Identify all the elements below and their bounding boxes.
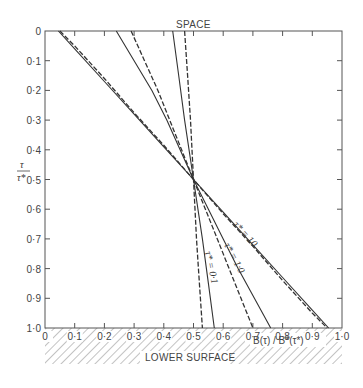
space-label: SPACE — [176, 19, 211, 30]
chart: 00·10·20·30·40·50·60·70·80·91·0 00·10·20… — [0, 0, 363, 388]
y-axis-title-denominator: τ* — [17, 172, 26, 183]
y-tick-label: 0·5 — [27, 175, 42, 186]
y-tick-label: 0·9 — [27, 293, 42, 304]
x-axis-title: B(τ) / B*(τ*) — [253, 335, 304, 346]
lower-surface-label: LOWER SURFACE — [145, 352, 236, 363]
y-tick-label: 0 — [35, 26, 41, 37]
y-tick-label: 0·2 — [27, 85, 42, 96]
x-tick-label: 1·0 — [335, 331, 350, 342]
y-tick-label: 0·7 — [27, 234, 42, 245]
x-tick-label: 0·3 — [127, 331, 142, 342]
x-tick-label: 0·2 — [97, 331, 112, 342]
x-tick-label: 0·6 — [216, 331, 231, 342]
x-tick-label: 0·1 — [67, 331, 82, 342]
curve-label-tau-10: τ* = 10 — [232, 219, 260, 249]
x-tick-label: 0·9 — [305, 331, 320, 342]
y-tick-label: 1·0 — [27, 323, 42, 334]
y-axis-title-numerator: τ — [20, 159, 24, 170]
x-tick-label: 0·5 — [186, 331, 201, 342]
curve-5 — [185, 31, 203, 328]
x-tick-label: 0·4 — [157, 331, 172, 342]
curve-label-tau-1: τ* = 1·0 — [222, 241, 247, 275]
curve-3 — [131, 31, 253, 328]
y-tick-labels: 00·10·20·30·40·50·60·70·80·91·0 — [27, 26, 42, 334]
x-tick-label: 0 — [42, 331, 48, 342]
y-tick-label: 0·6 — [27, 204, 42, 215]
y-tick-label: 0·3 — [27, 115, 42, 126]
curves — [58, 31, 328, 328]
y-tick-label: 0·4 — [27, 145, 42, 156]
y-tick-label: 0·8 — [27, 264, 42, 275]
y-tick-label: 0·1 — [27, 56, 42, 67]
